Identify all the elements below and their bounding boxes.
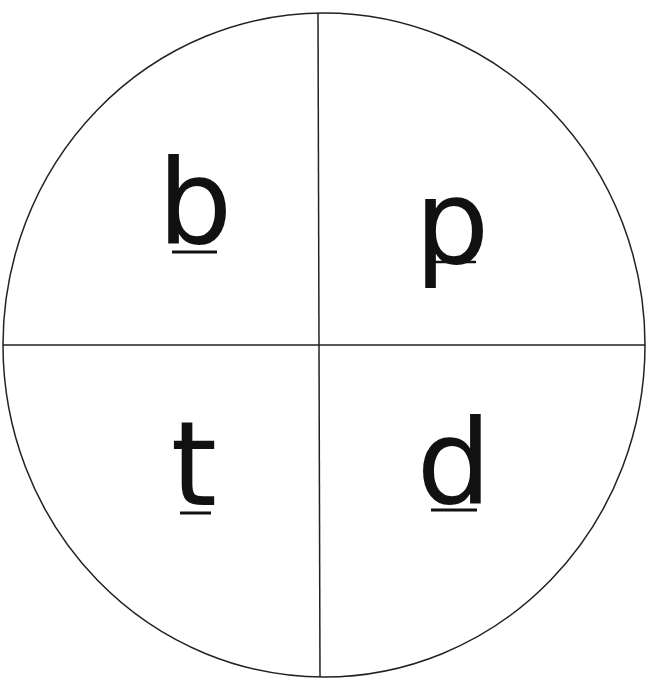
quadrant-bottom-left: t bbox=[171, 395, 217, 533]
quadrant-bottom-right: d bbox=[417, 394, 492, 532]
letter-p: p bbox=[415, 153, 490, 291]
quadrant-top-left: b bbox=[158, 134, 233, 272]
quadrant-top-right: p bbox=[415, 153, 490, 291]
letter-wheel: b p t d bbox=[0, 0, 649, 690]
